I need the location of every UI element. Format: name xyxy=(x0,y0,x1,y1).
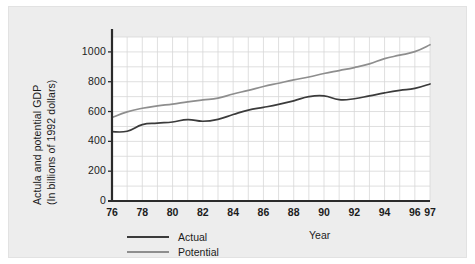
legend-swatch-potential xyxy=(127,251,169,253)
axis-lines xyxy=(112,37,430,201)
x-tick-label: 80 xyxy=(159,206,187,218)
y-tick-label: 800 xyxy=(66,75,106,87)
x-tick-label: 78 xyxy=(128,206,156,218)
legend-item: Potential xyxy=(127,244,219,259)
y-tick-label: 600 xyxy=(66,105,106,117)
legend-item: Actual xyxy=(127,229,219,244)
y-tick-label: 200 xyxy=(66,164,106,176)
chart-panel: Actula and potential GDP (In billions of… xyxy=(8,6,467,258)
x-tick-label: 97 xyxy=(416,206,444,218)
x-axis-label: Year xyxy=(309,229,330,241)
y-tick-label: 0 xyxy=(66,194,106,206)
x-tick-label: 86 xyxy=(249,206,277,218)
x-tick-label: 92 xyxy=(340,206,368,218)
y-axis-label: Actula and potential GDP (In billions of… xyxy=(42,35,70,205)
legend-label: Potential xyxy=(178,246,219,258)
x-tick-label: 90 xyxy=(310,206,338,218)
legend-swatch-actual xyxy=(127,236,169,238)
chart-legend: ActualPotential xyxy=(127,229,219,259)
x-tick-label: 76 xyxy=(98,206,126,218)
y-axis-label-line2: (In billions of 1992 dollars) xyxy=(45,80,57,205)
y-tick-label: 400 xyxy=(66,134,106,146)
plot-area xyxy=(112,37,430,201)
x-tick-label: 88 xyxy=(280,206,308,218)
x-tick-label: 94 xyxy=(371,206,399,218)
x-tick-label: 82 xyxy=(189,206,217,218)
y-tick-label: 1000 xyxy=(66,45,106,57)
y-axis-label-line1: Actula and potential GDP xyxy=(31,85,43,205)
chart-figure: Actula and potential GDP (In billions of… xyxy=(0,0,475,264)
legend-label: Actual xyxy=(178,231,207,243)
x-tick-label: 84 xyxy=(219,206,247,218)
